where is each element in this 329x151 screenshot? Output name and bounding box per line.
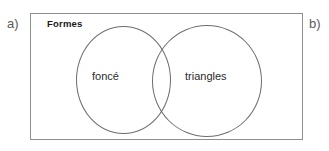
figure-canvas: a) b) Formes foncé triangles	[0, 0, 329, 151]
part-label-a: a)	[7, 17, 19, 31]
venn-set-label-right: triangles	[185, 70, 227, 83]
universe-title: Formes	[47, 18, 83, 29]
venn-set-label-left: foncé	[92, 70, 119, 83]
part-label-b: b)	[309, 17, 321, 31]
